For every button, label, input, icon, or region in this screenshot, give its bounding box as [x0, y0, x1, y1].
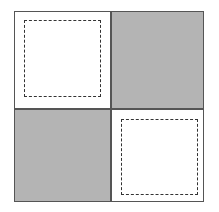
- cell-top-left: [15, 12, 110, 108]
- dashed-square-bottom-right: [121, 119, 198, 195]
- cell-bottom-left: [15, 109, 110, 201]
- cell-bottom-right: [111, 109, 203, 201]
- vertical-divider: [110, 12, 112, 201]
- checkerboard-grid: [14, 11, 204, 202]
- cell-top-right: [111, 12, 203, 108]
- horizontal-divider: [15, 108, 203, 110]
- dashed-square-top-left: [24, 20, 101, 97]
